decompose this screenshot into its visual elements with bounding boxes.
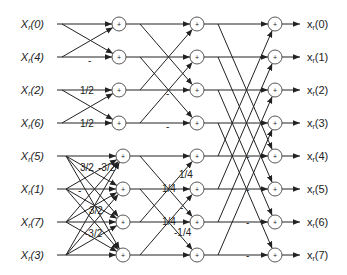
coefficient-label: 1/4: [162, 216, 176, 227]
stage2-cross-edge: [140, 24, 192, 85]
coefficient-label: 3/2: [89, 205, 103, 216]
plus-symbol: +: [121, 153, 125, 160]
output-label: xr(5): [307, 183, 328, 196]
plus-symbol: +: [117, 120, 121, 127]
coefficient-label: -: [78, 185, 81, 196]
coefficient-label: -: [166, 88, 169, 99]
coefficient-label: -: [246, 184, 249, 195]
plus-symbol: +: [195, 21, 199, 28]
output-label: xr(6): [307, 216, 328, 229]
input-label: Xr(0): [20, 18, 44, 31]
stage2-adder: +: [190, 248, 204, 262]
coefficient-label: -: [88, 55, 91, 66]
plus-symbol: +: [121, 219, 125, 226]
coefficient-label: -: [166, 121, 169, 132]
stage1-adder: +: [116, 248, 130, 262]
plus-symbol: +: [117, 54, 121, 61]
coefficient-label: 1/4: [162, 183, 176, 194]
plus-symbol: +: [273, 54, 277, 61]
butterfly-diagram: ++++++++++++++++++++++++ Xr(0)Xr(4)Xr(2)…: [0, 0, 347, 275]
plus-symbol: +: [121, 252, 125, 259]
stage2-adder: +: [190, 50, 204, 64]
plus-symbol: +: [273, 120, 277, 127]
stage2-cross-edge: [140, 29, 192, 90]
coefficient-label: -1/4: [174, 227, 192, 238]
plus-symbol: +: [195, 252, 199, 259]
stage1-adder: +: [112, 116, 126, 130]
plus-symbol: +: [273, 252, 277, 259]
coefficient-label: -: [246, 250, 249, 261]
stage1-adder: +: [116, 215, 130, 229]
stage1-adder: +: [112, 17, 126, 31]
stage3-cross-edge: [218, 57, 272, 183]
coefficients-layer: -1/21/2--3/2-3/2-3/2-3/21/41/4-1/4-1/4--…: [78, 55, 249, 261]
input-label: Xr(2): [20, 84, 44, 97]
input-label: Xr(1): [20, 183, 44, 196]
output-label: xr(3): [307, 117, 328, 130]
plus-symbol: +: [117, 87, 121, 94]
output-label: xr(2): [307, 84, 328, 97]
input-label: Xr(6): [20, 117, 44, 130]
coefficient-label: -3/2: [98, 162, 116, 173]
plus-symbol: +: [273, 21, 277, 28]
stage3-adder: +: [268, 149, 282, 163]
stage1-cross-edge: [62, 28, 113, 57]
stage1-adder: +: [112, 50, 126, 64]
stage3-adder: +: [268, 182, 282, 196]
stage3-cross-edge: [218, 24, 272, 150]
stage1-fan-edge: [66, 194, 118, 255]
plus-symbol: +: [195, 186, 199, 193]
stage3-cross-edge: [218, 30, 272, 156]
stage2-adder: +: [190, 116, 204, 130]
plus-symbol: +: [195, 54, 199, 61]
coefficient-label: -: [180, 202, 183, 213]
stage1-adder: +: [116, 149, 130, 163]
plus-symbol: +: [195, 120, 199, 127]
stage1-adder: +: [116, 182, 130, 196]
stage2-adder: +: [190, 215, 204, 229]
input-label: Xr(3): [20, 249, 44, 262]
plus-symbol: +: [273, 87, 277, 94]
plus-symbol: +: [273, 153, 277, 160]
coefficient-label: 1/2: [80, 85, 94, 96]
stage3-cross-edge: [218, 63, 272, 189]
plus-symbol: +: [195, 87, 199, 94]
stage3-adder: +: [268, 83, 282, 97]
output-label: xr(1): [307, 51, 328, 64]
input-label: Xr(5): [20, 150, 44, 163]
plus-symbol: +: [273, 219, 277, 226]
output-label: xr(4): [307, 150, 328, 163]
plus-symbol: +: [121, 186, 125, 193]
input-label: Xr(4): [20, 51, 44, 64]
stage3-adder: +: [268, 50, 282, 64]
plus-symbol: +: [117, 21, 121, 28]
stage1-adder: +: [112, 83, 126, 97]
coefficient-label: -: [246, 151, 249, 162]
stage3-adder: +: [268, 116, 282, 130]
edges-layer: [57, 24, 300, 255]
stage2-adder: +: [190, 17, 204, 31]
plus-symbol: +: [195, 219, 199, 226]
input-label: Xr(7): [20, 216, 44, 229]
stage1-cross-edge: [62, 24, 113, 53]
plus-symbol: +: [273, 186, 277, 193]
coefficient-label: 3/2: [80, 162, 94, 173]
coefficient-label: -: [246, 217, 249, 228]
stage2-adder: +: [190, 182, 204, 196]
stage3-adder: +: [268, 215, 282, 229]
coefficient-label: 1/4: [179, 169, 193, 180]
output-label: xr(7): [307, 249, 328, 262]
nodes-layer: ++++++++++++++++++++++++: [112, 17, 282, 262]
coefficient-label: -3/2: [85, 228, 103, 239]
stage2-adder: +: [190, 83, 204, 97]
plus-symbol: +: [195, 153, 199, 160]
stage2-adder: +: [190, 149, 204, 163]
coefficient-label: 1/2: [80, 118, 94, 129]
stage3-adder: +: [268, 17, 282, 31]
output-label: xr(0): [307, 18, 328, 31]
stage3-adder: +: [268, 248, 282, 262]
